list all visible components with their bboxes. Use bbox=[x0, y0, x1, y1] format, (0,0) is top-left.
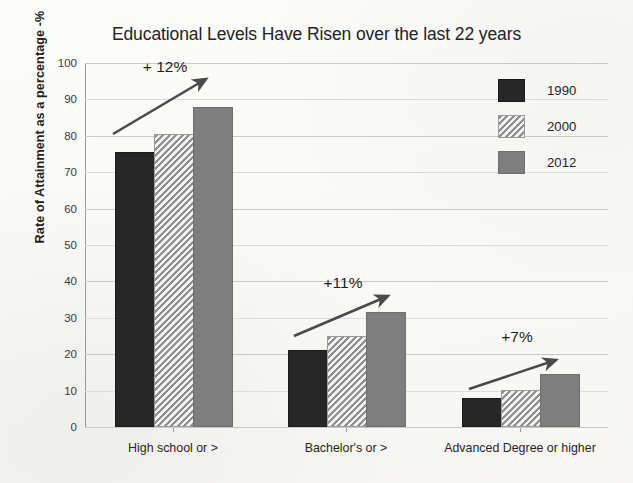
annotation-label-2: +11% bbox=[288, 274, 398, 292]
bar-1990-3 bbox=[462, 398, 502, 427]
y-tick-label: 80 bbox=[47, 130, 77, 142]
y-tick-label: 100 bbox=[47, 57, 77, 69]
y-tick-label: 50 bbox=[47, 239, 77, 251]
legend-swatch-icon bbox=[498, 115, 525, 138]
bar-1990-2 bbox=[288, 350, 328, 427]
bar-1990-1 bbox=[115, 152, 155, 427]
y-tick-label: 70 bbox=[47, 166, 77, 178]
y-tick-label: 90 bbox=[47, 93, 77, 105]
annotation-label-3: +7% bbox=[462, 328, 572, 346]
annotation-label-1: + 12% bbox=[100, 58, 230, 76]
x-tick-mark bbox=[346, 428, 347, 432]
y-tick-label: 30 bbox=[47, 312, 77, 324]
y-tick-label: 20 bbox=[47, 348, 77, 360]
bar-2012-1 bbox=[193, 107, 233, 428]
legend-swatch-icon bbox=[498, 79, 525, 102]
legend-item-2012[interactable]: 2012 bbox=[498, 144, 618, 180]
legend-label: 2012 bbox=[547, 155, 576, 170]
y-tick-label: 40 bbox=[47, 275, 77, 287]
chart-title: Educational Levels Have Risen over the l… bbox=[0, 24, 633, 45]
legend-item-2000[interactable]: 2000 bbox=[498, 108, 618, 144]
bar-2000-2 bbox=[327, 336, 367, 427]
chart-legend: 199020002012 bbox=[498, 72, 618, 180]
x-tick-mark bbox=[520, 428, 521, 432]
legend-item-1990[interactable]: 1990 bbox=[498, 72, 618, 108]
legend-label: 2000 bbox=[547, 119, 576, 134]
y-axis-tick-labels: 0102030405060708090100 bbox=[45, 63, 77, 427]
x-tick-mark bbox=[173, 428, 174, 432]
y-tick-label: 0 bbox=[47, 421, 77, 433]
bar-2000-3 bbox=[501, 390, 541, 427]
bar-2000-1 bbox=[154, 134, 194, 427]
legend-swatch-icon bbox=[498, 151, 525, 174]
y-tick-label: 10 bbox=[47, 385, 77, 397]
legend-label: 1990 bbox=[547, 83, 576, 98]
bar-chart: Educational Levels Have Risen over the l… bbox=[0, 0, 633, 483]
bar-2012-3 bbox=[540, 374, 580, 427]
y-tick-label: 60 bbox=[47, 203, 77, 215]
bar-2012-2 bbox=[366, 312, 406, 427]
category-label-3: Advanced Degree or higher bbox=[410, 441, 630, 455]
